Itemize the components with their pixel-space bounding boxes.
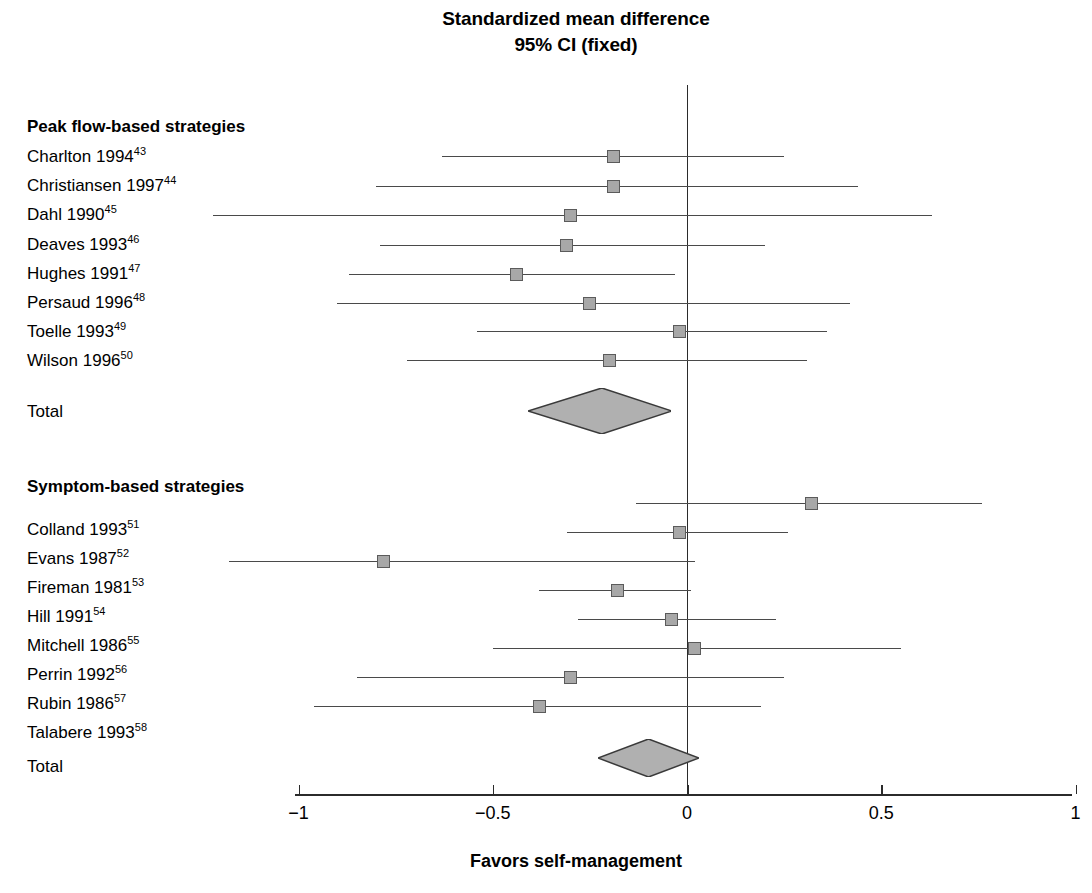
point-estimate-marker-persaud bbox=[583, 297, 596, 310]
point-estimate-marker-hill bbox=[611, 584, 624, 597]
point-estimate-marker-deaves bbox=[560, 239, 573, 252]
axis-tick-label-0: −1 bbox=[288, 804, 309, 822]
ci-line-toelle bbox=[477, 331, 827, 332]
point-estimate-marker-talabere bbox=[533, 700, 546, 713]
forest-plot-figure: Standardized mean difference 95% CI (fix… bbox=[0, 0, 1092, 893]
summary-diamond-peak-flow bbox=[528, 388, 672, 434]
axis-tick-label-2: 0 bbox=[682, 804, 692, 822]
point-estimate-marker-rubin bbox=[564, 671, 577, 684]
point-estimate-marker-colland bbox=[805, 497, 818, 510]
point-estimate-marker-wilson bbox=[603, 354, 616, 367]
x-axis-caption: Favors self-management bbox=[0, 851, 1092, 871]
axis-tick-label-3: 0.5 bbox=[869, 804, 894, 822]
x-axis-line bbox=[295, 794, 1072, 796]
point-estimate-marker-fireman bbox=[377, 555, 390, 568]
point-estimate-marker-hughes bbox=[510, 268, 523, 281]
axis-tick-3 bbox=[881, 785, 883, 794]
point-estimate-marker-christiansen bbox=[607, 180, 620, 193]
summary-diamond-symptom-based bbox=[598, 739, 699, 777]
plot-area bbox=[0, 0, 1092, 893]
point-estimate-marker-charlton bbox=[607, 150, 620, 163]
axis-tick-4 bbox=[1076, 785, 1078, 794]
null-effect-line bbox=[687, 85, 688, 794]
axis-tick-0 bbox=[299, 785, 301, 794]
point-estimate-marker-dahl bbox=[564, 209, 577, 222]
point-estimate-marker-evans bbox=[673, 526, 686, 539]
point-estimate-marker-perrin bbox=[688, 642, 701, 655]
point-estimate-marker-toelle bbox=[673, 325, 686, 338]
point-estimate-marker-mitchell bbox=[665, 613, 678, 626]
axis-tick-label-4: 1 bbox=[1070, 804, 1080, 822]
axis-tick-label-1: −0.5 bbox=[475, 804, 511, 822]
axis-tick-1 bbox=[493, 785, 495, 794]
ci-line-fireman bbox=[229, 561, 695, 562]
axis-tick-2 bbox=[687, 785, 689, 794]
